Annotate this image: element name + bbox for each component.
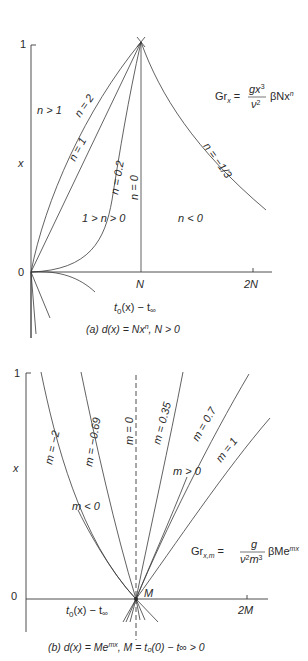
region-1-gt-n-gt-0: 1 > n > 0 [82, 212, 126, 224]
figure-a-formula: Grx= gx3 ν2 βNxn [215, 83, 294, 110]
svg-text:βNxn: βNxn [270, 90, 294, 102]
figure-b-x-axis-label: t0(x) − t∞ [66, 604, 108, 619]
curve-below-axis [31, 272, 95, 292]
label-m-neg-2: m = −2 [42, 429, 61, 465]
svg-text:gx3: gx3 [249, 83, 265, 95]
curve-n-neg-third [141, 42, 266, 210]
curve-m-0-35 [130, 372, 183, 622]
svg-text:βMemx: βMemx [268, 545, 299, 557]
region-m-gt-0: m > 0 [173, 465, 202, 477]
curve-m-neg-2 [41, 372, 145, 620]
figure-a-x-tick-n: N [136, 278, 144, 290]
figure-a-y-tick-origin: 0 [18, 266, 24, 278]
region-n-gt-1: n > 1 [37, 104, 62, 116]
curve-m-0-7 [126, 374, 249, 622]
svg-text:g: g [251, 538, 258, 550]
figure-a-x-tick-2n: 2N [243, 278, 258, 290]
figure-b-formula: Grx,m= g ν2m3 βMemx [191, 538, 299, 565]
figure-b-y-tick-top: 1 [14, 367, 20, 379]
figure-a-y-axis-label: x [17, 157, 24, 169]
label-n-2: n = 2 [72, 92, 96, 119]
figure-b-y-axis-label: x [12, 462, 19, 474]
figure-b-x-tick-m: M [144, 587, 154, 599]
figure-b: 1 x 0 M 2M t0(x) − t∞ Grx,m= g ν2m3 βMem… [11, 367, 299, 653]
figure-a-y-tick-top: 1 [20, 38, 26, 50]
figure-b-y-tick-origin: 0 [11, 590, 17, 602]
curve-n-1 [31, 42, 141, 272]
curve-m-neg-0-69 [81, 372, 140, 620]
region-m-lt-0: m < 0 [72, 500, 101, 512]
svg-text:Grx=: Grx= [215, 90, 240, 104]
figure-a-x-axis-label: t0(x) − t∞ [114, 301, 156, 316]
region-n-lt-0: n < 0 [178, 212, 204, 224]
point-m [134, 597, 138, 601]
svg-text:Grx,m=: Grx,m= [191, 545, 224, 559]
figure-b-x-tick-2m: 2M [237, 604, 254, 616]
label-m-neg-0-69: m = −0.69 [82, 416, 102, 467]
label-n-0: n = 0 [128, 174, 140, 200]
label-m-0: m = 0 [123, 416, 135, 445]
figure-a-caption: (a) d(x) = Nxn, N > 0 [86, 323, 180, 335]
svg-text:ν2m3: ν2m3 [240, 553, 263, 565]
figure-b-caption: (b) d(x) = Memx, M = t₀(0) − t∞ > 0 [48, 641, 205, 653]
svg-text:ν2: ν2 [251, 98, 261, 110]
figure-a: 1 x 0 N 2N t0(x) − t∞ Grx= gx3 ν2 βNxn n… [17, 37, 294, 338]
figure-a-y-axis [31, 45, 36, 338]
figure-b-y-axis [26, 373, 31, 632]
label-m-0-7: m = 0.7 [189, 404, 218, 443]
label-n-0-2: n = 0.2 [108, 160, 126, 196]
label-n-neg-third: n = −1/3 [201, 140, 234, 181]
